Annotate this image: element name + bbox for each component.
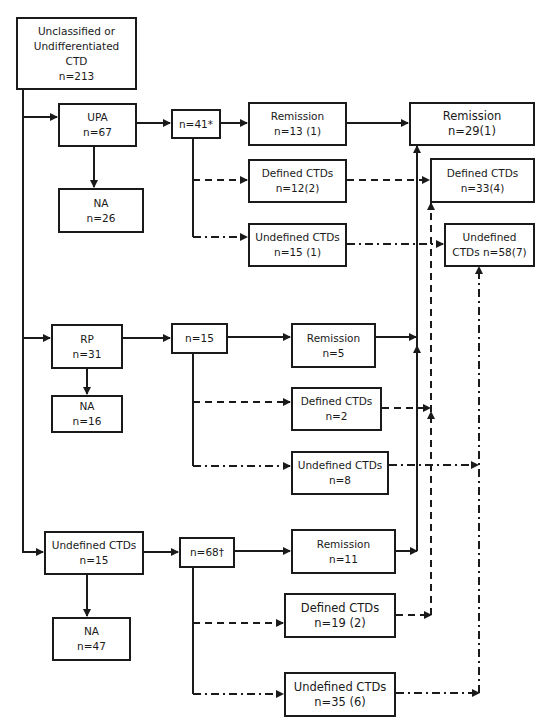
node-count: n=41* (179, 117, 213, 132)
node-label: UPA (87, 110, 108, 125)
node-count: n=15 (80, 553, 109, 568)
node-rp: RP n=31 (51, 324, 123, 369)
node-label: Remission (317, 537, 370, 552)
node-upa: UPA n=67 (58, 103, 137, 147)
flowchart: Unclassified or Undifferentiated CTD n=2… (0, 0, 553, 726)
node-count: n=12(2) (276, 181, 320, 196)
node-rp-na: NA n=16 (51, 395, 123, 433)
node-count: n=16 (73, 414, 102, 429)
node-count: n=8 (329, 473, 351, 488)
node-count: n=47 (77, 639, 106, 654)
node-count: n=29(1) (448, 124, 496, 139)
node-count: n=13 (1) (274, 124, 321, 139)
node-label: Undefined CTDs (294, 680, 387, 695)
node-total-undefined-ctds: Undefined CTDs n=58(7) (444, 223, 535, 267)
node-rp-followed: n=15 (171, 323, 228, 354)
node-rp-remission: Remission n=5 (291, 323, 376, 368)
node-count: n=68† (190, 545, 224, 560)
node-uctd-na: NA n=47 (52, 617, 131, 661)
node-label: Remission (307, 331, 360, 346)
node-uctd: Undefined CTDs n=15 (44, 531, 144, 575)
node-count: n=35 (6) (314, 695, 366, 710)
node-count: n=15 (1) (274, 245, 321, 260)
node-count: n=5 (322, 346, 344, 361)
node-count: n=33(4) (461, 181, 505, 196)
node-label: Remission (443, 109, 501, 124)
node-label: Undefined CTDs (255, 230, 340, 245)
node-label: Remission (271, 109, 324, 124)
node-count: n=67 (83, 125, 112, 140)
node-label: NA (93, 196, 108, 211)
node-root-unclassified-ctd: Unclassified or Undifferentiated CTD n=2… (16, 17, 137, 90)
node-upa-followed: n=41* (171, 109, 221, 139)
node-uctd-undefined-ctds: Undefined CTDs n=35 (6) (284, 672, 396, 717)
node-count: n=26 (87, 211, 116, 226)
node-total-remission: Remission n=29(1) (409, 102, 535, 146)
node-count: CTDs n=58(7) (452, 245, 526, 260)
node-upa-remission: Remission n=13 (1) (248, 102, 347, 146)
node-count: n=2 (325, 409, 347, 424)
node-label: NA (79, 399, 94, 414)
node-label: Defined CTDs (301, 601, 379, 616)
node-label: NA (84, 624, 99, 639)
node-rp-defined-ctds: Defined CTDs n=2 (291, 387, 382, 431)
node-upa-defined-ctds: Defined CTDs n=12(2) (248, 159, 347, 203)
node-label: Defined CTDs (447, 166, 519, 181)
node-label: CTD (66, 54, 88, 69)
node-label: Undifferentiated (34, 39, 120, 54)
node-uctd-remission: Remission n=11 (291, 529, 396, 574)
node-label: Unclassified or (38, 24, 115, 39)
node-label: Undefined CTDs (52, 538, 137, 553)
node-uctd-defined-ctds: Defined CTDs n=19 (2) (284, 593, 396, 638)
node-label: Defined CTDs (262, 166, 334, 181)
node-upa-undefined-ctds: Undefined CTDs n=15 (1) (248, 223, 347, 267)
node-label: Undefined CTDs (298, 458, 383, 473)
node-total-defined-ctds: Defined CTDs n=33(4) (430, 158, 535, 203)
node-count: n=213 (59, 69, 95, 84)
node-label: Defined CTDs (301, 394, 373, 409)
node-upa-na: NA n=26 (58, 188, 144, 233)
node-count: n=19 (2) (314, 616, 366, 631)
node-count: n=31 (73, 347, 102, 362)
node-count: n=11 (329, 552, 358, 567)
node-label: Undefined (463, 230, 517, 245)
node-uctd-followed: n=68† (179, 537, 235, 568)
node-label: RP (80, 332, 94, 347)
node-rp-undefined-ctds: Undefined CTDs n=8 (291, 451, 389, 495)
node-count: n=15 (185, 331, 214, 346)
